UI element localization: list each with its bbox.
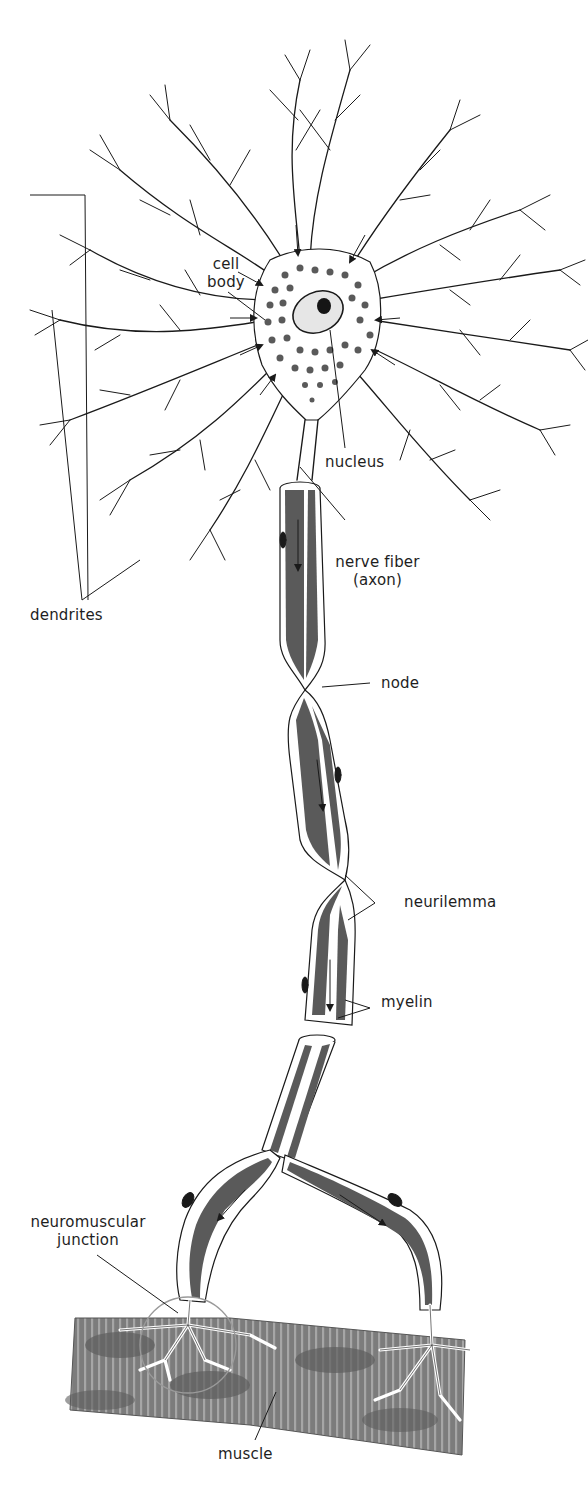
muscle-fiber (65, 1318, 465, 1455)
axon-upper (280, 420, 355, 1025)
label-nmj-line2: junction (18, 1231, 158, 1249)
label-cell-body: cell body (196, 255, 256, 291)
label-cell-body-line2: body (196, 273, 256, 291)
axon-lower (177, 1035, 442, 1310)
label-nerve-fiber: nerve fiber (axon) (325, 553, 430, 589)
label-nerve-fiber-line2: (axon) (325, 571, 430, 589)
label-myelin: myelin (381, 993, 433, 1011)
label-neurilemma: neurilemma (404, 893, 496, 911)
label-nerve-fiber-line1: nerve fiber (325, 553, 430, 571)
neuron-diagram (0, 0, 588, 1505)
label-nmj-line1: neuromuscular (18, 1213, 158, 1231)
label-neuromuscular-junction: neuromuscular junction (18, 1213, 158, 1249)
label-nucleus: nucleus (325, 453, 384, 471)
label-node: node (381, 674, 419, 692)
label-cell-body-line1: cell (196, 255, 256, 273)
label-muscle: muscle (218, 1445, 273, 1463)
label-dendrites: dendrites (30, 606, 103, 624)
